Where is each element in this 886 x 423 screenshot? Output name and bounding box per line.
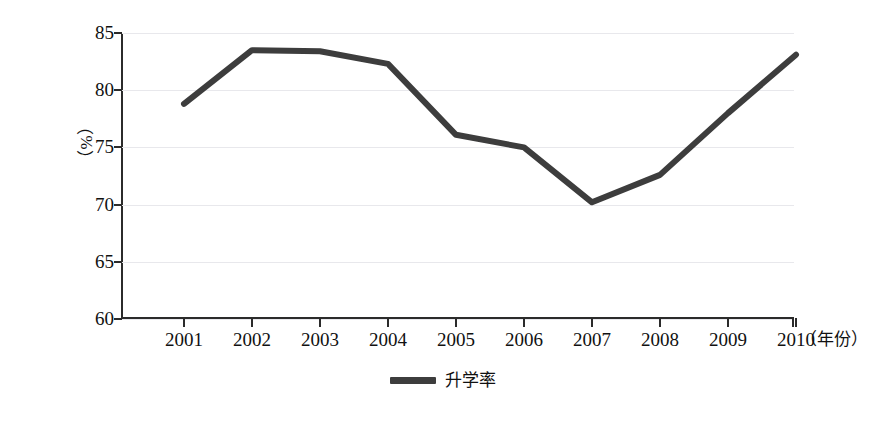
plot-area: [121, 33, 794, 319]
x-tick-mark-2007: [591, 318, 593, 327]
x-tick-label-2003: 2003: [285, 330, 355, 349]
x-axis-tick-labels: 2001200220032004200520062007200820092010: [121, 330, 881, 360]
y-tick-label-80: 80: [68, 80, 114, 99]
x-tick-mark-2005: [455, 318, 457, 327]
y-tick-label-85: 85: [68, 23, 114, 42]
x-tick-mark-2002: [251, 318, 253, 327]
y-tick-label-70: 70: [68, 195, 114, 214]
x-tick-label-2002: 2002: [217, 330, 287, 349]
legend-swatch-升学率: [390, 377, 436, 384]
x-tick-label-2004: 2004: [353, 330, 423, 349]
chart-legend: 升学率: [0, 372, 886, 389]
x-tick-mark-2001: [183, 318, 185, 327]
x-tick-label-2005: 2005: [421, 330, 491, 349]
legend-label-升学率: 升学率: [445, 372, 496, 389]
y-axis-tick-labels: 858075706560: [62, 0, 114, 423]
x-tick-mark-2004: [387, 318, 389, 327]
y-tick-label-65: 65: [68, 252, 114, 271]
x-tick-label-2008: 2008: [625, 330, 695, 349]
series-line-layer: [121, 33, 794, 319]
x-tick-label-2009: 2009: [693, 330, 763, 349]
x-tick-mark-2008: [659, 318, 661, 327]
x-tick-mark-2006: [523, 318, 525, 327]
gridline-60: [121, 319, 794, 320]
x-tick-label-2006: 2006: [489, 330, 559, 349]
chart-figure: （%） 858075706560 20012002200320042005200…: [0, 0, 886, 423]
x-tick-mark-2009: [727, 318, 729, 327]
x-tick-mark-2003: [319, 318, 321, 327]
x-axis-title: （年份）: [800, 330, 868, 350]
x-tick-mark-2010: [795, 318, 797, 327]
x-tick-label-2001: 2001: [149, 330, 219, 349]
y-tick-label-60: 60: [68, 309, 114, 328]
x-tick-label-2007: 2007: [557, 330, 627, 349]
series-line-升学率: [184, 50, 796, 202]
x-tick-mark-end: [792, 318, 794, 327]
y-tick-label-75: 75: [68, 137, 114, 156]
